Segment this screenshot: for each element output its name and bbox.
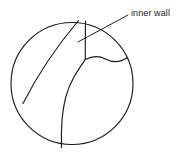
lower-inner-wall-curve bbox=[61, 60, 85, 148]
figure-container: inner wall bbox=[0, 0, 190, 157]
left-diagonal-wall-line bbox=[23, 21, 79, 104]
outer-boundary-circle bbox=[11, 23, 133, 145]
upper-right-wall-curve bbox=[85, 56, 127, 61]
annotation-label-inner-wall: inner wall bbox=[131, 8, 170, 18]
diagram-canvas bbox=[0, 0, 190, 157]
